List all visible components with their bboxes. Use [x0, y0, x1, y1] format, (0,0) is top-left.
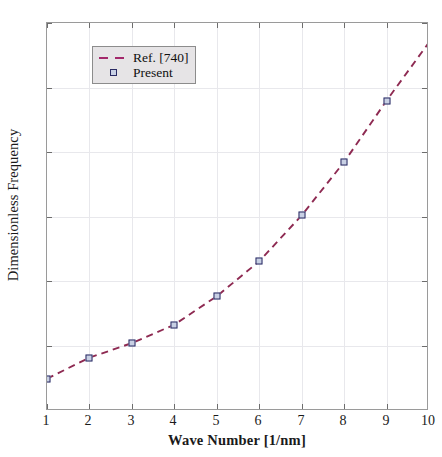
- data-point-marker: [256, 258, 263, 265]
- x-tick-label: 8: [328, 414, 358, 428]
- data-point-marker: [298, 212, 305, 219]
- x-tick-label: 9: [371, 414, 401, 428]
- legend-entry-ref: Ref. [740]: [97, 50, 188, 65]
- legend-label-ref: Ref. [740]: [131, 51, 188, 65]
- x-tick-label: 3: [116, 414, 146, 428]
- chart-figure: Dimensionless Frequency 12 10 8 6 4 2 0 …: [0, 0, 442, 457]
- plot-area: Ref. [740] Present: [46, 22, 428, 410]
- x-tick-label: 6: [243, 414, 273, 428]
- x-tick-label: 1: [31, 414, 61, 428]
- data-point-marker: [171, 321, 178, 328]
- x-tick-label: 10: [413, 414, 442, 428]
- x-axis-title: Wave Number [1/nm]: [46, 432, 428, 449]
- x-tick-label: 5: [201, 414, 231, 428]
- chart-legend: Ref. [740] Present: [92, 46, 196, 84]
- y-axis-title: Dimensionless Frequency: [4, 0, 22, 410]
- data-point-marker: [341, 159, 348, 166]
- x-tick-label: 2: [73, 414, 103, 428]
- data-point-marker: [86, 354, 93, 361]
- data-point-marker: [46, 375, 51, 382]
- legend-label-present: Present: [131, 66, 173, 80]
- dashed-line-key-icon: [97, 51, 131, 65]
- data-point-marker: [213, 293, 220, 300]
- data-point-marker: [383, 97, 390, 104]
- x-tick-label: 4: [158, 414, 188, 428]
- x-tick-label: 7: [286, 414, 316, 428]
- legend-entry-present: Present: [97, 65, 188, 80]
- data-point-marker: [128, 340, 135, 347]
- square-marker-key-icon: [97, 66, 131, 80]
